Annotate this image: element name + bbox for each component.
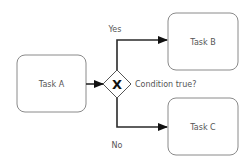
task-a-label: Task A <box>38 80 65 89</box>
task-c-label: Task C <box>189 123 216 132</box>
gateway-condition-label: Condition true? <box>135 80 196 89</box>
flow-yes-label: Yes <box>108 25 122 34</box>
flow-gateway-to-task-c[interactable] <box>117 98 167 127</box>
task-b-label: Task B <box>189 38 215 47</box>
gateway-x-icon: X <box>112 77 122 92</box>
bpmn-diagram: Task A Task B Task C Yes No X Condition … <box>0 0 252 163</box>
task-b[interactable]: Task B <box>168 13 238 70</box>
exclusive-gateway[interactable]: X <box>103 70 131 98</box>
flow-no-label: No <box>112 141 123 150</box>
flow-gateway-to-task-b[interactable] <box>117 40 167 70</box>
task-a[interactable]: Task A <box>17 55 86 112</box>
task-c[interactable]: Task C <box>168 98 238 155</box>
